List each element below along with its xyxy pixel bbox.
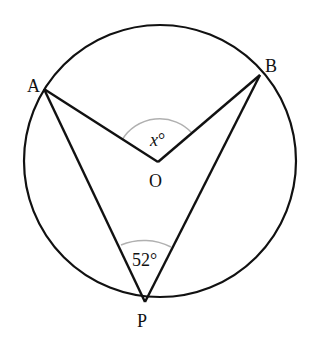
inscribed-angle-label: 52° [132, 250, 157, 270]
segment-BO [158, 75, 260, 162]
inscribed-angle-arc [121, 240, 171, 247]
angle-variable: x [149, 130, 158, 150]
circle-diagram: A B O P x° 52° [0, 0, 312, 341]
label-B: B [265, 56, 277, 76]
label-P: P [137, 311, 147, 331]
central-angle-label: x° [149, 130, 165, 150]
label-O: O [149, 171, 162, 191]
label-A: A [27, 76, 40, 96]
degree-symbol: ° [158, 130, 165, 150]
